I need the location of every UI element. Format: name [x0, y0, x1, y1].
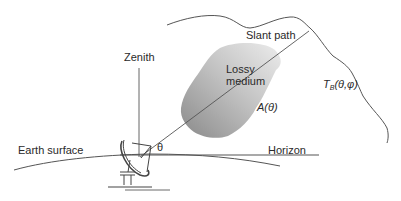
brightness-T: T	[323, 78, 330, 90]
earth-surface-curve	[14, 154, 280, 170]
horizon-label: Horizon	[268, 145, 306, 156]
brightness-args: (θ,φ)	[334, 78, 358, 90]
lossy-medium-label-line1: Lossy	[226, 64, 255, 75]
lossy-medium-shape	[181, 43, 281, 138]
brightness-temperature-label: TB(θ,φ)	[323, 79, 358, 91]
theta-label: θ	[157, 142, 163, 153]
diagram-canvas	[0, 0, 401, 201]
lossy-medium-label-line2: medium	[226, 76, 265, 87]
attenuation-label: A(θ)	[257, 102, 278, 113]
slant-path-label: Slant path	[246, 30, 296, 41]
earth-surface-label: Earth surface	[18, 145, 83, 156]
zenith-label: Zenith	[124, 52, 155, 63]
